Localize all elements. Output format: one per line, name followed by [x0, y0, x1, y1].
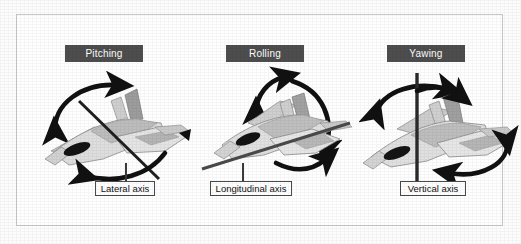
aircraft-illustration-yawing [361, 67, 521, 187]
aircraft-body-yaw [363, 93, 513, 169]
axis-label-lateral: Lateral axis [95, 181, 155, 196]
aircraft-body-roll [214, 93, 352, 159]
roll-arc-lower [276, 159, 326, 169]
axis-label-longitudinal: Longitudinal axis [210, 181, 292, 196]
panel-title-rolling: Rolling [226, 45, 304, 62]
leader-line-lateral [125, 163, 127, 183]
figure-frame: Pitching [16, 14, 503, 226]
panel-title-pitching: Pitching [65, 45, 143, 62]
aircraft-illustration-pitching [39, 67, 199, 187]
pitch-diagram-svg [39, 67, 199, 187]
panel-pitching: Pitching [39, 15, 199, 227]
panel-title-yawing: Yawing [387, 45, 465, 62]
roll-diagram-svg [200, 67, 360, 187]
leader-line-longitudinal [242, 163, 244, 183]
axis-label-vertical: Vertical axis [400, 181, 466, 196]
figure-canvas: Pitching [0, 0, 521, 244]
aircraft-illustration-rolling [200, 67, 360, 187]
yaw-diagram-svg [361, 67, 521, 187]
panel-rolling: Rolling [200, 15, 360, 227]
panel-yawing: Yawing [361, 15, 521, 227]
